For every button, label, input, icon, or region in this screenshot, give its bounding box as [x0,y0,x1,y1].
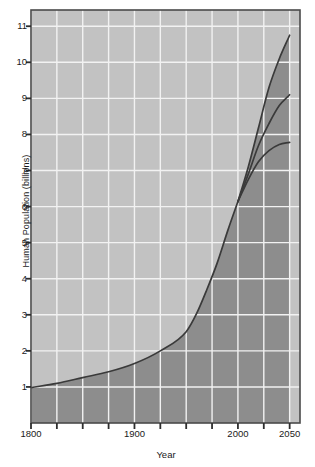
x-tick-label-2050: 2050 [265,428,315,439]
y-tick-label: 11 [5,21,27,31]
y-tick-label: 1 [5,382,27,392]
x-tick-label-1800: 1800 [6,428,56,439]
y-tick-label: 7 [5,166,27,176]
y-tick-label: 4 [5,274,27,284]
y-tick-label: 5 [5,238,27,248]
x-tick-label-2000: 2000 [213,428,263,439]
plot-area [0,0,315,467]
y-tick-label: 2 [5,346,27,356]
y-tick-label: 9 [5,93,27,103]
y-tick-label: 8 [5,129,27,139]
y-tick-label: 6 [5,202,27,212]
y-tick-label: 3 [5,310,27,320]
y-tick-label: 10 [5,57,27,67]
x-tick-label-1900: 1900 [109,428,159,439]
x-axis-title: Year [31,449,301,460]
population-chart: Human Population (billions) Year 1234567… [0,0,315,467]
